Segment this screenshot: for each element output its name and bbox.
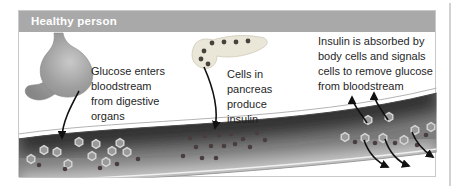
insulin-particle [209,144,214,149]
insulin-particle [255,131,260,136]
pancreas-illustration [192,36,267,69]
insulin-particle [353,140,358,145]
insulin-particle [203,134,208,139]
insulin-annotation: Insulin is absorbed by body cells and si… [318,34,433,94]
pancreas-cell-dot [246,39,251,44]
insulin-particle [181,154,186,159]
insulin-particle [241,137,246,142]
page: Healthy person [0,0,460,186]
glucose-particle [123,148,131,157]
glucose-particle [88,152,96,161]
insulin-particle [248,145,253,150]
glucose-particle [40,146,48,155]
pancreas-cell-dot [210,41,215,46]
blood-particle [37,163,42,168]
blood-particle [63,167,68,172]
blood-particle [115,162,120,167]
stomach-to-bloodstream-arrow [62,91,79,138]
insulin-particle [229,132,234,137]
glucose-particle [92,140,100,149]
glucose-particle [400,136,408,145]
glucose-annotation: Glucose enters bloodstream from digestiv… [91,64,165,124]
pancreas-cell-dot [206,62,211,67]
insulin-particle [263,138,268,143]
glucose-particle [427,123,435,132]
glucose-particle [53,148,61,157]
glucose-particle [75,138,83,147]
page-column-divider [449,3,451,186]
insulin-particle [233,142,238,147]
insulin-particle [194,145,199,150]
insulin-particle [424,133,429,138]
insulin-particle [222,144,227,149]
blood-particle [98,166,103,171]
glucose-particle [116,139,124,148]
insulin-particle [200,156,205,161]
insulin-particle [214,156,219,161]
pancreas-cell-dot [199,57,204,62]
glucose-particle [341,133,349,142]
glucose-particle [108,147,116,156]
stomach-illustration [25,33,93,100]
pancreas-cell-dot [202,49,207,54]
glucose-particle [102,158,110,167]
insulin-particle [188,136,193,141]
pancreas-annotation: Cells in pancreas produce insulin [227,67,272,127]
insulin-particle [217,133,222,138]
pancreas-cell-dot [234,40,239,45]
insulin-particle [373,141,378,146]
pancreas-cell-dot [222,40,227,45]
blood-particle [136,157,141,162]
glucose-particle [27,155,35,164]
insulin-particle [393,141,398,146]
